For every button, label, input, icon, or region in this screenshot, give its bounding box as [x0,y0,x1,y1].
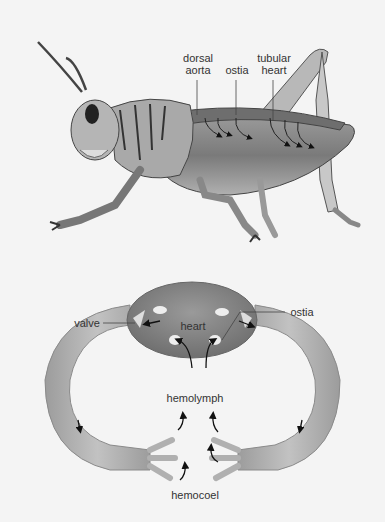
label-valve: valve [72,317,102,329]
label-dorsal-line1: dorsal [181,52,215,64]
label-ostia-top: ostia [222,64,252,76]
label-tubular-line2: heart [254,64,294,76]
label-hemolymph: hemolymph [165,392,225,404]
label-ostia-bottom: ostia [287,306,317,318]
label-tubular-heart: tubular heart [254,52,294,76]
label-hemocoel: hemocoel [168,489,222,501]
label-dorsal-aorta: dorsal aorta [181,52,215,76]
label-heart: heart [176,320,210,332]
diagram-canvas [0,0,385,522]
label-tubular-line1: tubular [254,52,294,64]
label-dorsal-line2: aorta [181,64,215,76]
